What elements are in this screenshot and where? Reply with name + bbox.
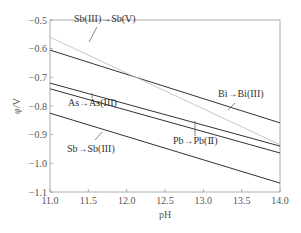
- y-axis-title: φ/V: [11, 97, 22, 114]
- y-tick-label: −0.7: [29, 72, 47, 83]
- series-label: Pb→Pb(Ⅱ): [173, 135, 218, 147]
- y-tick-label: −0.8: [29, 101, 47, 112]
- x-tick-label: 13.5: [233, 195, 251, 206]
- x-tick-label: 12.5: [156, 195, 174, 206]
- x-tick-label: 13.0: [195, 195, 213, 206]
- leader-line: [89, 27, 97, 42]
- x-tick-label: 11.0: [41, 195, 58, 206]
- x-axis-title: pH: [159, 209, 171, 220]
- y-tick-label: −0.5: [29, 15, 47, 26]
- x-tick-label: 12.0: [118, 195, 136, 206]
- x-axis: 11.011.512.012.513.013.514.0: [41, 189, 288, 206]
- x-tick-label: 11.5: [80, 195, 97, 206]
- x-tick-label: 14.0: [271, 195, 289, 206]
- chart: −0.5−0.6−0.7−0.8−0.9−1.0−1.1 11.011.512.…: [0, 0, 301, 233]
- y-axis: −0.5−0.6−0.7−0.8−0.9−1.0−1.1: [29, 15, 53, 198]
- y-tick-label: −0.6: [29, 43, 47, 54]
- series-label: As→As(III): [68, 97, 117, 109]
- series-lines: [50, 37, 280, 183]
- y-tick-label: −1.0: [29, 158, 47, 169]
- leader-line: [95, 132, 102, 140]
- series-label: Sb→Sb(III): [67, 143, 115, 155]
- series-label: Bi→Bi(III): [218, 88, 264, 100]
- series-line: [50, 50, 280, 123]
- series-label: Sb(III)→Sb(Ⅴ): [74, 13, 136, 25]
- y-tick-label: −0.9: [29, 129, 47, 140]
